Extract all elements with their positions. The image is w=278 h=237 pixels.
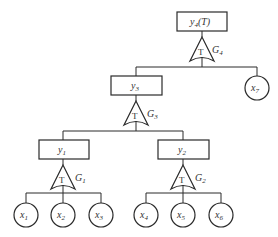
svg-text:G2: G2 <box>195 172 206 185</box>
basic-event-x6: x6 <box>209 203 233 227</box>
event-y1: y1 <box>39 140 89 159</box>
svg-text:G4: G4 <box>212 44 223 57</box>
event-y2: y2 <box>158 140 209 159</box>
svg-text:T: T <box>59 175 65 185</box>
gate-g1: T G1 <box>51 165 86 189</box>
event-y3: y3 <box>111 76 162 95</box>
basic-event-x4: x4 <box>134 203 158 227</box>
svg-text:G3: G3 <box>147 108 158 121</box>
basic-event-x7: x7 <box>245 76 269 100</box>
gate-g4: T G4 <box>190 37 223 61</box>
basic-event-x5: x5 <box>171 203 195 227</box>
fault-tree-diagram: y4(T) T G4 y3 x7 T G3 y1 y2 T G1 <box>0 0 278 237</box>
gate-g2: T G2 <box>171 165 206 189</box>
svg-text:T: T <box>132 111 138 121</box>
svg-text:T: T <box>179 175 185 185</box>
basic-event-x3: x3 <box>89 203 113 227</box>
basic-event-x1: x1 <box>14 203 38 227</box>
svg-text:T: T <box>198 47 204 57</box>
gate-g3: T G3 <box>124 101 158 125</box>
svg-text:G1: G1 <box>75 172 86 185</box>
basic-event-x2: x2 <box>51 203 75 227</box>
top-event-y4: y4(T) <box>177 12 227 31</box>
